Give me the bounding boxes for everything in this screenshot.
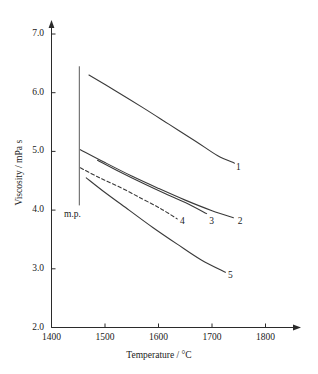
y-tick-label-5.0: 5.0 — [6, 146, 44, 156]
y-axis-arrow-icon — [49, 20, 55, 28]
y-tick-label-4.0: 4.0 — [6, 205, 44, 215]
y-tick-label-6.0: 6.0 — [6, 88, 44, 98]
x-axis-title: Temperature / °C — [0, 351, 318, 361]
x-tick-label-1400: 1400 — [28, 333, 76, 343]
series-label-3: 3 — [209, 217, 214, 227]
y-axis-ticks — [52, 34, 56, 328]
series-label-5: 5 — [228, 271, 233, 281]
viscosity-temperature-chart: 2.03.04.05.06.07.0 14001500160017001800 … — [0, 0, 318, 374]
y-tick-label-3.0: 3.0 — [6, 264, 44, 274]
x-tick-label-1600: 1600 — [135, 333, 183, 343]
series-line-2 — [80, 150, 233, 218]
series-line-4 — [80, 168, 177, 219]
x-tick-label-1500: 1500 — [81, 333, 129, 343]
series-label-4: 4 — [180, 217, 185, 227]
x-tick-label-1800: 1800 — [242, 333, 290, 343]
x-axis-arrow-icon — [293, 325, 301, 331]
series-line-5 — [86, 178, 225, 273]
series-line-3 — [98, 160, 207, 213]
plot-area — [0, 0, 318, 374]
axes — [49, 20, 301, 330]
y-axis-title: Viscosity / mPa s — [15, 118, 25, 228]
x-tick-label-1700: 1700 — [188, 333, 236, 343]
y-tick-label-7.0: 7.0 — [6, 29, 44, 39]
y-tick-label-2.0: 2.0 — [6, 323, 44, 333]
series-label-1: 1 — [236, 163, 241, 173]
melting-point-label: m.p. — [64, 210, 81, 220]
series-label-2: 2 — [238, 217, 243, 227]
series-line-1 — [89, 75, 235, 163]
x-axis-ticks — [52, 324, 266, 328]
chart-series — [80, 75, 234, 272]
